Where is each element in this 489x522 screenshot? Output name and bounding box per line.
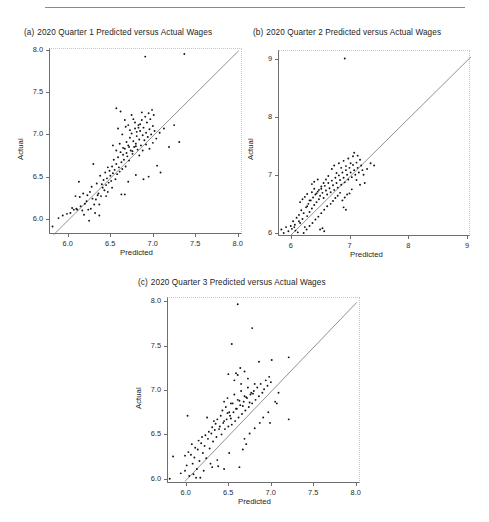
data-point [148,176,150,178]
data-point [126,155,128,157]
data-point [105,184,107,186]
data-point [306,215,308,217]
data-point [139,130,141,132]
data-point [125,126,127,128]
data-point [274,401,276,403]
data-point [311,208,313,210]
data-point [227,373,229,375]
data-point [221,433,223,435]
data-point [233,411,235,413]
data-point [251,402,253,404]
data-point [98,215,100,217]
data-point [124,193,126,195]
data-point [153,114,155,116]
data-point [96,182,98,184]
x-tick-label: 7 [335,241,365,250]
data-point [110,180,112,182]
data-point [258,361,260,363]
y-axis-title-quarter1: Actual [16,138,25,160]
data-point [144,116,146,118]
data-point [204,445,206,447]
chart-tag-quarter1: (a) [24,28,34,37]
data-point [240,390,242,392]
data-point [221,410,223,412]
data-point [86,194,88,196]
data-point [242,405,244,407]
data-point [244,438,246,440]
data-point [311,191,313,193]
data-point [238,400,240,402]
data-point [133,146,135,148]
data-point [98,204,100,206]
x-tick-mark [195,234,196,237]
data-point [341,172,343,174]
data-point [146,122,148,124]
data-point [137,124,139,126]
data-point [106,177,108,179]
data-point [298,220,300,222]
data-point [198,440,200,442]
data-point [115,150,117,152]
x-tick-mark [110,234,111,237]
data-point [131,114,133,116]
data-point [309,211,311,213]
data-point [313,188,315,190]
y-tick-label: 8.0 [131,296,161,305]
data-point [196,468,198,470]
data-point [140,144,142,146]
data-point [118,166,120,168]
data-point [84,203,86,205]
data-point [115,163,117,165]
data-point [212,441,214,443]
data-point [152,142,154,144]
data-point [199,477,201,479]
data-point [112,172,114,174]
data-point [119,171,121,173]
data-point [127,124,129,126]
data-point [351,188,353,190]
chart-title-quarter1: (a)2020 Quarter 1 Predicted versus Actua… [24,28,212,37]
data-point [344,58,346,60]
data-point [247,378,249,380]
data-point [331,180,333,182]
data-point [135,145,137,147]
data-point [237,374,239,376]
data-point [192,463,194,465]
data-point [201,436,203,438]
data-point [224,428,226,430]
data-point [261,392,263,394]
data-point [325,179,327,181]
data-point [135,174,137,176]
data-point [75,195,77,197]
data-point [120,151,122,153]
data-point [80,205,82,207]
data-point [243,401,245,403]
data-point [351,176,353,178]
data-point [309,199,311,201]
data-point [244,395,246,397]
data-point [128,160,130,162]
data-point [361,169,363,171]
data-point [143,127,145,129]
data-point [233,379,235,381]
data-point [330,191,332,193]
y-tick-label: 7.0 [131,385,161,394]
data-point [129,129,131,131]
data-point [309,225,311,227]
data-point [193,456,195,458]
y-tick-label: 9 [242,54,272,63]
data-point [83,214,85,216]
data-point [317,179,319,181]
data-point [135,143,137,145]
data-point [317,191,319,193]
x-tick-mark [356,483,357,486]
x-tick-mark [408,236,409,239]
scatter-canvas-quarter1 [50,49,243,235]
data-point [268,376,270,378]
data-point [291,228,293,230]
data-point [199,460,201,462]
data-point [87,209,89,211]
data-point [325,190,327,192]
data-point [132,150,134,152]
data-point [208,431,210,433]
